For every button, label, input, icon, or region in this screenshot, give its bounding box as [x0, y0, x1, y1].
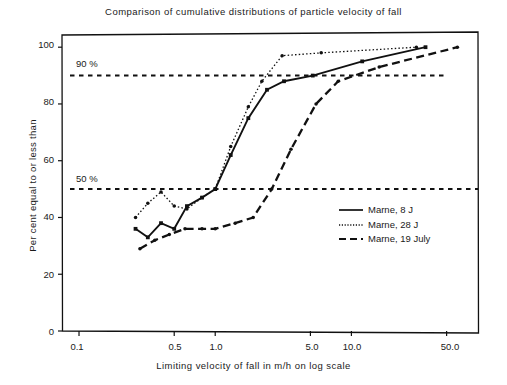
data-point: [138, 247, 142, 251]
data-point: [270, 187, 274, 191]
legend-swatch-dotted-icon: [338, 220, 364, 230]
legend-item-marne-28j: Marne, 28 J: [338, 218, 430, 233]
data-point: [229, 145, 233, 149]
data-point: [168, 233, 172, 237]
legend-swatch-dashed-icon: [338, 234, 364, 244]
legend-item-marne-19july: Marne, 19 July: [338, 232, 430, 247]
series-line: [136, 47, 417, 217]
data-point: [172, 227, 176, 231]
legend-swatch-solid-icon: [338, 205, 364, 215]
data-point: [159, 221, 163, 225]
data-point: [159, 190, 163, 194]
data-point: [280, 54, 284, 58]
data-point: [185, 207, 189, 211]
data-point: [134, 216, 138, 220]
data-point: [183, 227, 187, 231]
data-point: [260, 79, 264, 83]
data-point: [153, 238, 157, 242]
data-point: [233, 221, 237, 225]
legend-label: Marne, 8 J: [368, 203, 413, 218]
data-point: [311, 74, 315, 78]
data-point: [415, 45, 419, 49]
data-point: [213, 227, 217, 231]
data-point: [319, 51, 323, 55]
data-point: [424, 45, 428, 49]
data-point: [229, 153, 233, 157]
legend: Marne, 8 J Marne, 28 J Marne, 19 July: [338, 203, 430, 247]
data-point: [360, 59, 364, 63]
data-point: [172, 204, 176, 208]
axis-frame: [62, 32, 479, 333]
data-point: [314, 102, 318, 106]
reference-lines: [70, 76, 478, 190]
data-point: [134, 227, 138, 231]
legend-label: Marne, 19 July: [368, 232, 430, 247]
data-point: [247, 105, 251, 109]
legend-label: Marne, 28 J: [368, 218, 418, 233]
data-point: [282, 79, 286, 83]
data-point: [146, 235, 150, 239]
data-point: [289, 148, 293, 152]
chart-figure: Comparison of cumulative distributions o…: [0, 0, 507, 385]
axis-ticks: [58, 47, 447, 336]
data-point: [456, 45, 460, 49]
data-point: [146, 202, 150, 206]
data-point: [200, 196, 204, 200]
data-point: [336, 79, 340, 83]
data-point: [377, 65, 381, 69]
data-point: [251, 216, 255, 220]
data-point: [246, 116, 250, 120]
plot-canvas: [0, 0, 507, 385]
data-point: [200, 227, 204, 231]
legend-item-marne-8j: Marne, 8 J: [338, 203, 430, 218]
data-point: [213, 187, 217, 191]
data-point: [265, 88, 269, 92]
